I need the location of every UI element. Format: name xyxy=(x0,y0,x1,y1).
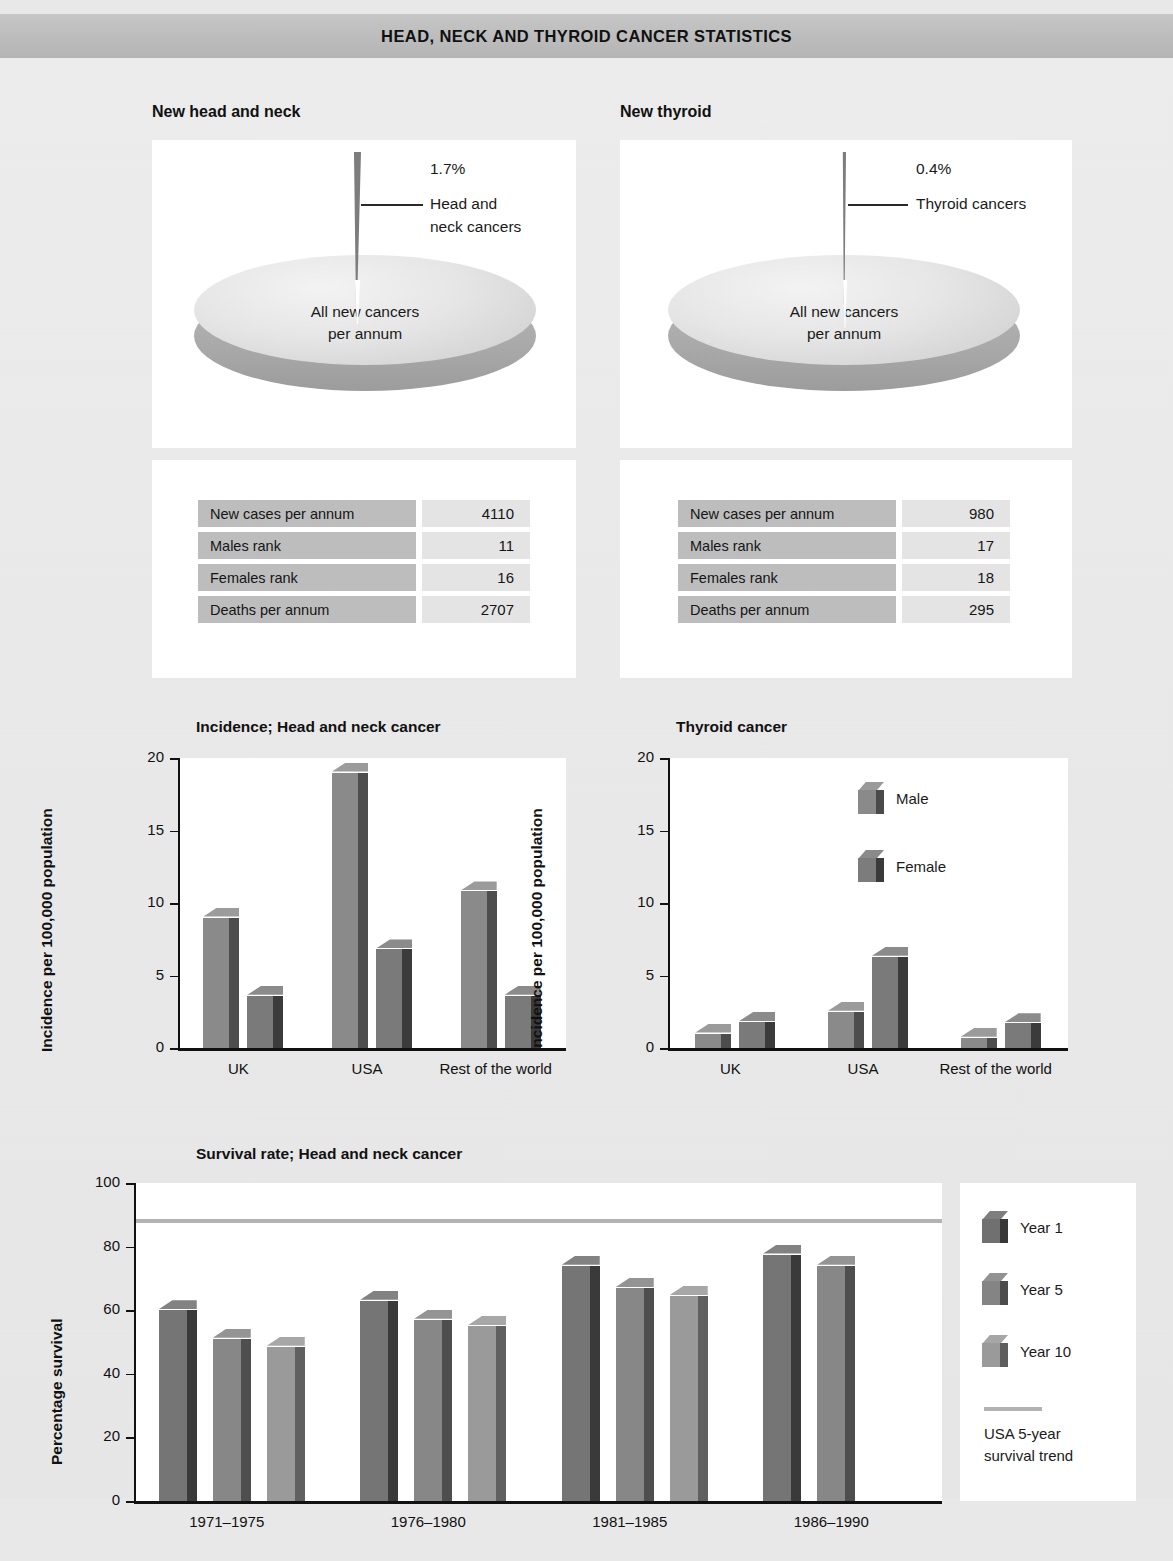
bar-front-face xyxy=(332,773,358,1049)
bar-front-face xyxy=(468,1326,496,1501)
x-axis xyxy=(668,1048,1068,1051)
bar xyxy=(159,1300,187,1501)
table-cell-value: 2707 xyxy=(422,596,530,623)
bar-front-face xyxy=(817,1266,845,1501)
legend-swatch-trend-line-icon xyxy=(984,1407,1042,1411)
legend-swatch-male-icon xyxy=(858,782,884,814)
y-axis-tick xyxy=(126,1374,134,1376)
page-footer-caption xyxy=(0,1548,1173,1561)
y-axis xyxy=(134,1183,136,1503)
bar xyxy=(332,763,358,1049)
bar-top-face xyxy=(203,908,239,917)
bar-top-face xyxy=(763,1245,801,1254)
bar xyxy=(213,1329,241,1501)
chart-survival-rate: Survival rate; Head and neck cancer Perc… xyxy=(0,1135,1173,1535)
y-axis xyxy=(668,758,670,1050)
legend-label-trend-line1: USA 5-year xyxy=(984,1423,1061,1445)
bar-side-face xyxy=(1031,1023,1041,1048)
table-row: New cases per annum 980 xyxy=(678,500,1010,527)
bar-top-face xyxy=(817,1256,855,1265)
bar-top-face xyxy=(1005,1013,1041,1022)
y-axis-tick xyxy=(170,976,178,978)
y-axis-tick xyxy=(660,976,668,978)
legend-swatch-female-icon xyxy=(858,850,884,882)
chart-incidence-thyroid: Thyroid cancer Incidence per 100,000 pop… xyxy=(490,700,1090,1100)
legend-label-year-10: Year 10 xyxy=(1020,1343,1071,1360)
bar xyxy=(414,1310,442,1501)
bar xyxy=(872,947,898,1048)
table-row: Males rank 17 xyxy=(678,532,1010,559)
legend-item-female: Female xyxy=(858,850,946,882)
bar xyxy=(468,1316,496,1501)
table-cell-key: Deaths per annum xyxy=(198,596,416,623)
bar-side-face xyxy=(241,1339,251,1501)
disc-caption-line1: All new cancers xyxy=(194,301,536,323)
bar-top-face xyxy=(695,1024,731,1033)
pie-slice-label-line1: Thyroid cancers xyxy=(916,193,1026,215)
bar-side-face xyxy=(496,1326,506,1501)
bar-side-face xyxy=(388,1301,398,1501)
disc-caption-line2: per annum xyxy=(194,323,536,345)
table-cell-key: New cases per annum xyxy=(198,500,416,527)
y-axis-tick xyxy=(660,831,668,833)
legend-item-year-10: Year 10 xyxy=(982,1335,1071,1367)
bar-side-face xyxy=(229,918,239,1049)
bar-side-face xyxy=(721,1034,731,1049)
bar xyxy=(828,1002,854,1048)
section-title-new-thyroid: New thyroid xyxy=(620,103,712,121)
bar-side-face xyxy=(358,773,368,1049)
y-axis-tick-label: 0 xyxy=(124,1038,164,1055)
y-axis-tick xyxy=(126,1247,134,1249)
bar xyxy=(1005,1013,1031,1048)
bar-top-face xyxy=(616,1278,654,1287)
y-axis-tick-label: 0 xyxy=(80,1491,120,1508)
bar-front-face xyxy=(739,1022,765,1048)
x-axis-category-label: 1981–1985 xyxy=(540,1513,720,1530)
bar-side-face xyxy=(644,1288,654,1501)
bar-front-face xyxy=(695,1034,721,1049)
y-axis-tick-label: 60 xyxy=(80,1300,120,1317)
bar-front-face xyxy=(670,1296,698,1501)
y-axis-tick xyxy=(660,903,668,905)
chart-y-axis-label: Incidence per 100,000 population xyxy=(528,808,546,1052)
legend-swatch-year-10-icon xyxy=(982,1335,1008,1367)
bar-front-face xyxy=(1005,1023,1031,1048)
bar-front-face xyxy=(872,957,898,1048)
x-axis-category-label: 1976–1980 xyxy=(338,1513,518,1530)
y-axis-tick xyxy=(126,1183,134,1185)
y-axis-tick xyxy=(660,1048,668,1050)
bar-front-face xyxy=(414,1320,442,1501)
table-row: Deaths per annum 2707 xyxy=(198,596,530,623)
bar-side-face xyxy=(845,1266,855,1501)
bar-side-face xyxy=(187,1310,197,1501)
legend-label-female: Female xyxy=(896,858,946,875)
table-cell-key: Deaths per annum xyxy=(678,596,896,623)
bar xyxy=(817,1256,845,1501)
chart-y-axis-label: Percentage survival xyxy=(48,1319,66,1465)
table-cell-key: New cases per annum xyxy=(678,500,896,527)
x-axis-category-label: 1971–1975 xyxy=(137,1513,317,1530)
y-axis-tick-label: 10 xyxy=(124,893,164,910)
bar-front-face xyxy=(763,1255,791,1501)
bar xyxy=(247,986,273,1048)
table-cell-value: 16 xyxy=(422,564,530,591)
table-cell-value: 18 xyxy=(902,564,1010,591)
y-axis-tick xyxy=(126,1310,134,1312)
legend-label-trend-line2: survival trend xyxy=(984,1445,1073,1467)
y-axis-tick xyxy=(126,1501,134,1503)
bar-side-face xyxy=(765,1022,775,1048)
bar xyxy=(616,1278,644,1501)
stats-table-thyroid: New cases per annum 980 Males rank 17 Fe… xyxy=(678,500,1010,628)
bar xyxy=(961,1028,987,1048)
table-row: Males rank 11 xyxy=(198,532,530,559)
table-cell-value: 17 xyxy=(902,532,1010,559)
bar-front-face xyxy=(376,949,402,1048)
y-axis-tick xyxy=(170,903,178,905)
bar-top-face xyxy=(332,763,368,772)
bar-top-face xyxy=(414,1310,452,1319)
y-axis-tick-label: 20 xyxy=(124,748,164,765)
y-axis-tick xyxy=(170,758,178,760)
pie-percent-label: 1.7% xyxy=(430,160,465,178)
y-axis-tick-label: 5 xyxy=(614,966,654,983)
bar-side-face xyxy=(273,996,283,1048)
